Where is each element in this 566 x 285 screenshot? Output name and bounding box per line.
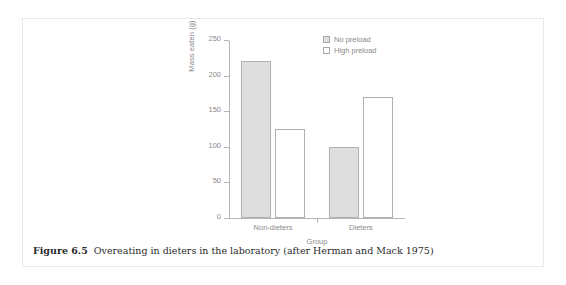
y-tick: 0: [224, 218, 229, 219]
bar: [275, 129, 305, 218]
legend-label: No preload: [334, 35, 371, 44]
figure-caption-text: Overeating in dieters in the laboratory …: [94, 245, 434, 256]
x-category-label: Dieters: [349, 223, 373, 232]
chart-legend: No preloadHigh preload: [323, 35, 377, 57]
y-tick-label: 150: [208, 105, 221, 114]
y-axis-line: [229, 41, 230, 219]
y-tick: 200: [224, 76, 229, 77]
figure-number: Figure 6.5: [33, 245, 88, 256]
legend-swatch-icon: [323, 47, 330, 54]
plot-area: 050100150200250 Non-dietersDieters Group: [229, 41, 405, 219]
legend-item: No preload: [323, 35, 377, 44]
bar: [241, 61, 271, 218]
bar: [363, 97, 393, 218]
y-tick: 250: [224, 40, 229, 41]
y-tick-label: 250: [208, 34, 221, 43]
y-tick: 100: [224, 147, 229, 148]
x-category-label: Non-dieters: [254, 223, 293, 232]
bar-chart: Mass eaten (g) 050100150200250 Non-diete…: [193, 29, 413, 244]
legend-label: High preload: [334, 46, 377, 55]
y-tick-label: 50: [213, 176, 221, 185]
figure-caption: Figure 6.5Overeating in dieters in the l…: [33, 245, 434, 256]
legend-swatch-icon: [323, 36, 330, 43]
y-tick-label: 0: [217, 212, 221, 221]
y-tick: 150: [224, 111, 229, 112]
y-axis-title: Mass eaten (g): [187, 1, 196, 91]
y-tick-label: 200: [208, 70, 221, 79]
figure-panel: Mass eaten (g) 050100150200250 Non-diete…: [22, 18, 544, 267]
bar: [329, 147, 359, 218]
x-tick: [317, 219, 318, 223]
y-tick: 50: [224, 182, 229, 183]
y-tick-label: 100: [208, 141, 221, 150]
legend-item: High preload: [323, 46, 377, 55]
